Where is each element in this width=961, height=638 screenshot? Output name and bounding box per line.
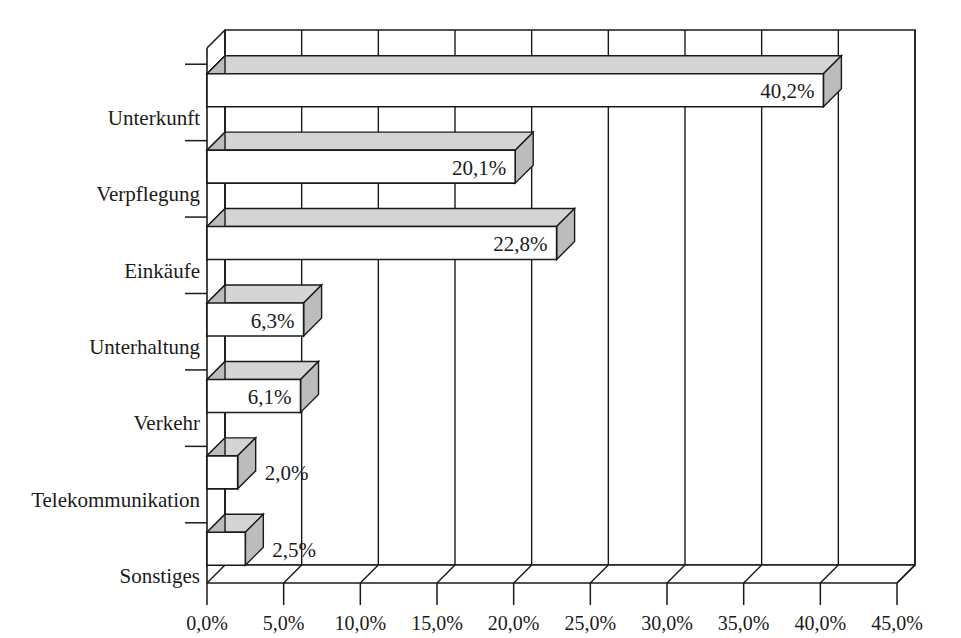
value-label: 40,2% — [760, 79, 814, 103]
value-label: 2,0% — [265, 461, 309, 485]
category-label: Telekommunikation — [31, 488, 200, 512]
category-label: Einkäufe — [124, 259, 200, 283]
value-label: 6,3% — [251, 309, 295, 333]
category-label: Unterhaltung — [89, 335, 200, 359]
floor-plane — [207, 565, 915, 583]
bar-front-face — [207, 456, 238, 489]
x-tick-label: 10,0% — [334, 612, 386, 634]
category-label: Verkehr — [134, 411, 200, 435]
x-tick-label: 5,0% — [263, 612, 305, 634]
x-tick-label: 20,0% — [488, 612, 540, 634]
category-label: Verpflegung — [96, 182, 200, 206]
value-label: 22,8% — [493, 232, 547, 256]
chart-container: 0,0%5,0%10,0%15,0%20,0%25,0%30,0%35,0%40… — [0, 0, 961, 638]
back-plane — [225, 30, 915, 565]
value-label: 2,5% — [272, 538, 316, 562]
value-label: 6,1% — [248, 385, 292, 409]
x-tick-label: 0,0% — [186, 612, 228, 634]
x-tick-label: 30,0% — [641, 612, 693, 634]
floor-surface — [207, 565, 915, 583]
bar-top-face — [207, 132, 533, 150]
x-tick-label: 35,0% — [718, 612, 770, 634]
x-tick-label: 25,0% — [564, 612, 616, 634]
bar-top-face — [207, 56, 841, 74]
back-wall — [225, 30, 915, 565]
x-tick-label: 40,0% — [794, 612, 846, 634]
x-tick-label: 45,0% — [871, 612, 923, 634]
category-label: Sonstiges — [119, 564, 200, 588]
bar-front-face — [207, 532, 245, 565]
bar-chart-3d: 0,0%5,0%10,0%15,0%20,0%25,0%30,0%35,0%40… — [0, 0, 961, 638]
bar-top-face — [207, 209, 575, 227]
bar-front-face — [207, 74, 823, 107]
value-label: 20,1% — [452, 156, 506, 180]
x-tick-label: 15,0% — [411, 612, 463, 634]
category-label: Unterkunft — [108, 106, 200, 130]
bar-group — [207, 56, 841, 107]
